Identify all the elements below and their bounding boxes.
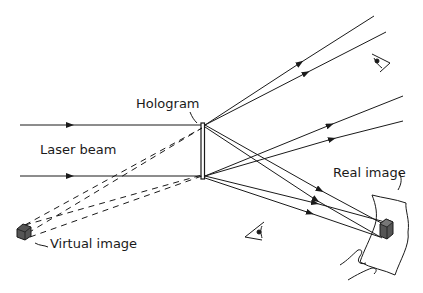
virtual-image-cube: [17, 224, 31, 240]
diverging-rays: [205, 16, 403, 176]
hologram-diagram: Hologram Laser beam Virtual image Real i…: [0, 0, 423, 293]
converging-rays: [205, 125, 385, 238]
real-image-label: Real image: [333, 165, 406, 180]
real-image-cube: [380, 219, 393, 239]
virtual-image-label: Virtual image: [50, 236, 137, 251]
eye-icon-upper: [372, 54, 390, 72]
hologram-label: Hologram: [136, 96, 200, 111]
laser-beam-label: Laser beam: [40, 142, 116, 157]
hologram-plate: [201, 123, 205, 179]
eye-icon-lower: [245, 222, 264, 240]
virtual-image-pointer: [35, 243, 48, 247]
hologram-pointer: [190, 112, 197, 123]
hand: [340, 250, 376, 280]
